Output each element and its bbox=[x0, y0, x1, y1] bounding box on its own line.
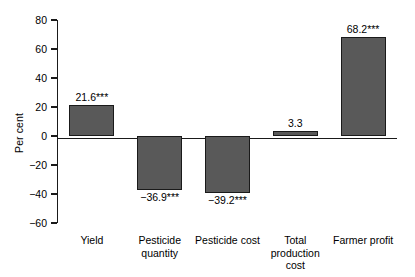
y-tick-label: −40 bbox=[7, 189, 47, 200]
bar bbox=[205, 136, 250, 193]
y-tick-label: 60 bbox=[7, 44, 47, 55]
x-category-label: Farmer profit bbox=[318, 234, 408, 247]
bar-chart-figure: Per cent 806040200−20−40−60 21.6***−36.9… bbox=[0, 0, 415, 277]
bar-value-label: 21.6*** bbox=[42, 92, 142, 103]
y-axis-line bbox=[57, 20, 58, 223]
y-tick-mark bbox=[51, 19, 57, 20]
y-tick-label: 0 bbox=[7, 131, 47, 142]
y-tick-label: 40 bbox=[7, 73, 47, 84]
bar bbox=[341, 37, 386, 136]
y-tick-mark bbox=[51, 222, 57, 223]
y-tick-mark bbox=[51, 48, 57, 49]
y-tick-label: −60 bbox=[7, 218, 47, 229]
bar bbox=[137, 136, 182, 190]
y-tick-mark bbox=[51, 164, 57, 165]
y-tick-mark bbox=[51, 193, 57, 194]
y-tick-label: 80 bbox=[7, 15, 47, 26]
bar-value-label: 3.3 bbox=[245, 118, 345, 129]
y-tick-label: −20 bbox=[7, 160, 47, 171]
bar bbox=[69, 105, 114, 136]
bar bbox=[273, 131, 318, 136]
bar-value-label: 68.2*** bbox=[313, 24, 413, 35]
y-tick-mark bbox=[51, 77, 57, 78]
bar-value-label: −39.2*** bbox=[178, 195, 278, 206]
y-tick-label: 20 bbox=[7, 102, 47, 113]
y-tick-mark bbox=[51, 106, 57, 107]
y-tick-mark bbox=[51, 135, 57, 136]
plot-area: 806040200−20−40−60 21.6***−36.9***−39.2*… bbox=[0, 0, 415, 277]
